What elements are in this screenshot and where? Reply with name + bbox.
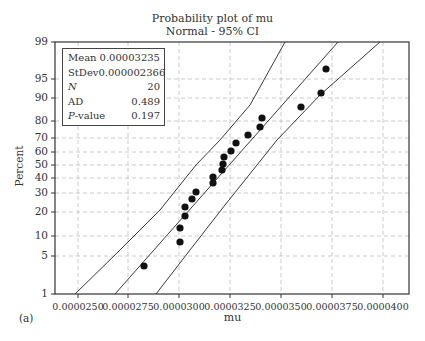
stats-row-pvalue: P-value0.197: [68, 109, 160, 124]
data-point: [218, 166, 225, 173]
data-point: [232, 139, 239, 146]
data-point: [244, 131, 251, 138]
y-tick-label: 1: [18, 287, 48, 299]
data-point: [256, 123, 263, 130]
y-tick-label: 5: [18, 249, 48, 261]
data-point: [220, 153, 227, 160]
data-point: [181, 203, 188, 210]
stats-legend-box: Mean0.00003235 StDev0.000002366 N20 AD0.…: [62, 48, 165, 126]
y-tick-label: 20: [18, 205, 48, 217]
data-point: [322, 65, 329, 72]
data-point: [192, 188, 199, 195]
stats-row-ad: AD0.489: [68, 95, 160, 110]
y-tick-label: 90: [18, 91, 48, 103]
stats-row-stdev: StDev0.000002366: [68, 66, 160, 81]
y-tick-label: 95: [18, 72, 48, 84]
data-point: [317, 89, 324, 96]
data-point: [176, 224, 183, 231]
data-point: [227, 147, 234, 154]
data-point: [176, 238, 183, 245]
y-axis-title: Percent: [13, 141, 25, 191]
data-point: [209, 173, 216, 180]
data-point: [297, 103, 304, 110]
y-tick-label: 99: [18, 35, 48, 47]
y-tick-label: 10: [18, 229, 48, 241]
data-point: [258, 114, 265, 121]
y-tick-label: 80: [18, 114, 48, 126]
data-point: [188, 195, 195, 202]
data-point: [181, 212, 188, 219]
data-point: [140, 262, 147, 269]
stats-row-mean: Mean0.00003235: [68, 51, 160, 66]
x-axis-title: mu: [0, 311, 425, 324]
panel-label: (a): [19, 312, 33, 324]
stats-row-n: N20: [68, 80, 160, 95]
data-point: [219, 160, 226, 167]
